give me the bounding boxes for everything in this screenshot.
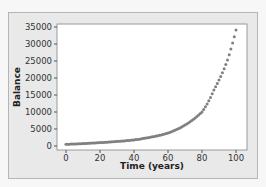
- data-point: [233, 35, 236, 38]
- data-point: [209, 96, 212, 99]
- scatter-chart: 05000100001500020000250003000035000 0204…: [0, 0, 266, 187]
- data-point: [231, 42, 234, 45]
- x-axis-title: Time (years): [120, 161, 184, 171]
- x-tick-label: 100: [228, 153, 244, 163]
- y-tick-label: 35000: [25, 22, 52, 32]
- data-point: [226, 59, 229, 62]
- y-axis: 05000100001500020000250003000035000: [25, 22, 57, 151]
- y-tick-label: 20000: [25, 73, 52, 83]
- data-point: [207, 99, 210, 102]
- y-tick-label: 25000: [25, 56, 52, 66]
- y-tick-label: 10000: [25, 107, 52, 117]
- data-point: [216, 82, 219, 85]
- data-point: [224, 63, 227, 66]
- plot-area: [57, 24, 247, 150]
- data-point: [228, 53, 231, 56]
- data-point: [221, 71, 224, 74]
- data-point: [201, 111, 204, 114]
- data-point: [219, 75, 222, 78]
- y-tick-label: 15000: [25, 90, 52, 100]
- y-tick-label: 30000: [25, 39, 52, 49]
- data-point: [229, 48, 232, 51]
- data-point: [212, 88, 215, 91]
- x-tick-label: 80: [197, 153, 208, 163]
- data-point: [214, 85, 217, 88]
- y-tick-label: 5000: [30, 124, 52, 134]
- x-tick-label: 0: [63, 153, 68, 163]
- y-tick-label: 0: [47, 141, 52, 151]
- data-point: [206, 102, 209, 105]
- data-point: [235, 29, 238, 32]
- data-point: [218, 79, 221, 82]
- data-point: [223, 67, 226, 70]
- y-axis-title: Balance: [12, 67, 22, 107]
- data-point: [211, 92, 214, 95]
- data-point: [204, 105, 207, 108]
- data-point: [202, 108, 205, 111]
- x-tick-label: 20: [95, 153, 106, 163]
